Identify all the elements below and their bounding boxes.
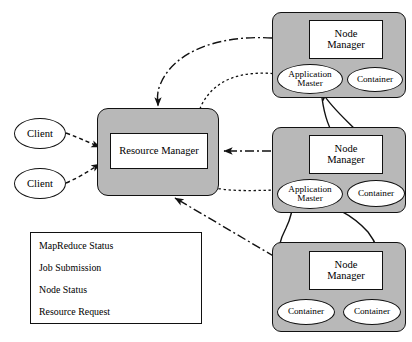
container-3-2[interactable]: Container	[343, 299, 401, 325]
resource-manager-panel[interactable]: Resource Manager	[97, 108, 219, 196]
edge-node1-status-to-resource-manager	[158, 38, 273, 106]
legend-box: MapReduce Status Job Submission Node Sta…	[30, 232, 202, 324]
node-manager-label-line2: Manager	[327, 271, 365, 282]
node-manager-box-3[interactable]: Node Manager	[309, 251, 383, 290]
container-2-1[interactable]: Container	[347, 180, 405, 207]
resource-manager-label: Resource Manager	[119, 146, 199, 157]
node-panel-2[interactable]: Node Manager Application Master Containe…	[272, 127, 406, 213]
node-manager-label-line1: Node	[327, 29, 365, 40]
client-node-2[interactable]: Client	[14, 168, 66, 199]
node-manager-box-1[interactable]: Node Manager	[309, 20, 383, 59]
client-label: Client	[27, 128, 53, 139]
container-label: Container	[354, 307, 390, 316]
edge-client2-to-resource-manager	[66, 164, 100, 183]
client-node-1[interactable]: Client	[14, 118, 66, 149]
application-master-label-line2: Master	[288, 79, 331, 88]
yarn-architecture-diagram: Client Client Resource Manager Node Mana…	[0, 0, 412, 342]
resource-manager-box[interactable]: Resource Manager	[110, 133, 208, 169]
edge-client1-to-resource-manager	[66, 133, 100, 147]
node-panel-3[interactable]: Node Manager Container Container	[272, 242, 406, 332]
node-manager-label-line2: Manager	[327, 155, 365, 166]
node-panel-1[interactable]: Node Manager Application Master Containe…	[272, 12, 406, 98]
client-label: Client	[27, 178, 53, 189]
container-label: Container	[288, 307, 324, 316]
container-3-1[interactable]: Container	[277, 299, 335, 325]
legend-label-resource-request: Resource Request	[39, 306, 110, 317]
legend-label-node-status: Node Status	[39, 284, 87, 295]
container-label: Container	[357, 75, 393, 84]
node-manager-label-line1: Node	[327, 144, 365, 155]
legend-label-job-submission: Job Submission	[39, 262, 101, 273]
application-master-label-line2: Master	[288, 194, 331, 203]
node-manager-box-2[interactable]: Node Manager	[309, 135, 383, 174]
application-master-2[interactable]: Application Master	[277, 179, 343, 209]
container-label: Container	[358, 189, 394, 198]
application-master-1[interactable]: Application Master	[277, 64, 343, 94]
legend-label-mapreduce-status: MapReduce Status	[39, 240, 113, 251]
node-manager-label-line1: Node	[327, 260, 365, 271]
node-manager-label-line2: Manager	[327, 40, 365, 51]
container-1-1[interactable]: Container	[347, 67, 403, 92]
